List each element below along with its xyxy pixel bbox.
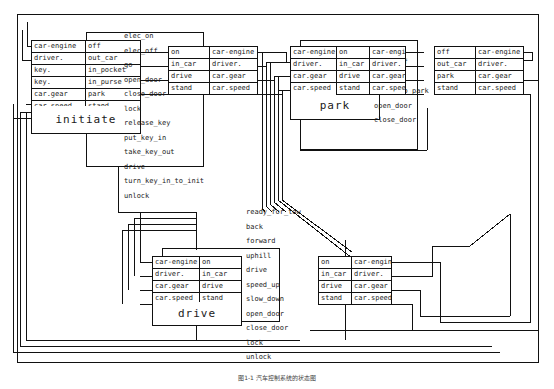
table-row: drive car.gear [337,71,405,83]
port-table-drive-in-left: car-engine on driver. in_car car.gear dr… [152,256,242,305]
attr-key: car-engine [370,47,405,58]
attr-value: off [435,47,476,58]
event-label: lock [246,336,301,351]
attr-key: driver. [32,53,86,64]
state-park-name: park [290,99,380,112]
attr-value: drive [200,281,241,292]
attr-value: stand [337,83,370,94]
attr-key: driver. [370,59,405,70]
state-drive-name: drive [152,307,242,320]
event-label: speed_up [246,278,301,293]
table-row: in_car driver. [337,59,405,71]
table-row: stand car.speed [337,83,405,94]
attr-key: car.gear [352,281,391,292]
attr-key: car.speed [210,83,257,94]
table-row: car-engine on [153,257,241,269]
attr-value: park [435,71,476,82]
event-label: turn_key_in_to_init [124,174,204,189]
attr-key: driver. [210,59,257,70]
event-label: close_door [374,113,429,128]
attr-key: car.gear [476,71,523,82]
attr-key: car.speed [476,83,523,94]
table-row: stand car.speed [319,293,391,304]
attr-key: car.gear [153,281,200,292]
table-row: in_car driver. [319,269,391,281]
event-label: lock [124,102,204,117]
attr-key: driver. [352,269,391,280]
figure-caption: 图1-1 汽车控制系统的状态图 [0,373,554,382]
attr-key: car.gear [370,71,405,82]
table-row: driver. in_car [153,269,241,281]
port-table-park-out-right: on car-engine in_car driver. drive car.g… [336,46,406,95]
event-label: elec_on [124,29,204,44]
port-table-far-right-top: off car-engine out_car driver. park car.… [434,46,524,95]
event-label: take_key_out [124,145,204,160]
event-label: back [246,220,301,235]
attr-value: on [200,257,241,268]
event-label: put_key_in [124,131,204,146]
attr-value: in_car [169,59,210,70]
table-row: drive car.gear [169,71,257,83]
event-label: close_door [246,321,301,336]
table-row: on car-engine [319,257,391,269]
table-row: stand car.speed [435,83,523,94]
event-label: unlock [246,350,301,365]
event-label: open_door [246,307,301,322]
table-row: park car.gear [435,71,523,83]
port-table-drive-out-right: on car-engine in_car driver. drive car.g… [318,256,392,305]
state-drive-events: ready_for_tow back forward uphill drive … [246,205,301,365]
table-row: on car-engine [169,47,257,59]
attr-key: car.gear [210,71,257,82]
attr-key: key. [32,65,86,76]
table-row: in_car driver. [169,59,257,71]
attr-key: car.speed [370,83,405,94]
table-row: on car-engine [337,47,405,59]
event-label: uphill [246,249,301,264]
table-row: stand car.speed [169,83,257,94]
attr-key: driver. [476,59,523,70]
event-label: forward [246,234,301,249]
attr-key: key. [32,77,86,88]
attr-value: in_car [200,269,241,280]
event-label: drive [246,263,301,278]
attr-key: car.gear [291,71,338,82]
attr-key: car.speed [352,293,391,304]
attr-key: car-engine [32,41,86,52]
event-label: drive [124,160,204,175]
attr-value: stand [319,293,352,304]
attr-key: driver. [291,59,338,70]
attr-key: car-engine [153,257,200,268]
attr-value: in_car [319,269,352,280]
attr-value: in_car [337,59,370,70]
table-row: off car-engine [435,47,523,59]
attr-key: car-engine [476,47,523,58]
attr-value: on [169,47,210,58]
attr-value: stand [435,83,476,94]
event-label: ready_for_tow [246,205,301,220]
event-label: unlock [124,189,204,204]
event-label: open_door [374,99,429,114]
attr-value: on [319,257,352,268]
attr-key: car-engine [352,257,391,268]
event-label: release_key [124,116,204,131]
attr-value: stand [169,83,210,94]
attr-value: drive [169,71,210,82]
table-row: out_car driver. [435,59,523,71]
event-label: slow_down [246,292,301,307]
state-diagram-figure: car-engine off driver. out_car key. in_p… [0,0,554,389]
attr-key: car-engine [291,47,338,58]
attr-value: drive [337,71,370,82]
attr-value: drive [319,281,352,292]
attr-key: car-engine [210,47,257,58]
attr-value: on [337,47,370,58]
table-row: car.gear drive [153,281,241,293]
attr-value: out_car [435,59,476,70]
table-row: drive car.gear [319,281,391,293]
attr-key: car.gear [32,89,86,100]
port-table-initiate-out-top: on car-engine in_car driver. drive car.g… [168,46,258,95]
attr-key: driver. [153,269,200,280]
